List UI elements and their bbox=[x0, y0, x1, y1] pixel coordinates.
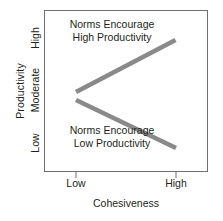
annotation-high-productivity-line2: High Productivity bbox=[52, 31, 172, 44]
y-tick-label-high-text: High bbox=[29, 27, 41, 49]
annotation-high-productivity: Norms Encourage High Productivity bbox=[52, 18, 172, 43]
annotation-low-productivity: Norms Encourage Low Productivity bbox=[52, 124, 172, 149]
y-axis-title-text: Productivity bbox=[14, 63, 26, 118]
y-tick-label-low-text: Low bbox=[29, 133, 41, 152]
y-axis-title: Productivity bbox=[12, 0, 28, 182]
y-tick-label-moderate: Moderate bbox=[27, 82, 43, 98]
y-tick-label-low: Low bbox=[27, 135, 43, 151]
y-tick-label-moderate-text: Moderate bbox=[29, 68, 41, 112]
x-tick-label-low: Low bbox=[52, 177, 100, 189]
x-tick-label-high: High bbox=[152, 177, 200, 189]
annotation-high-productivity-line1: Norms Encourage bbox=[52, 18, 172, 31]
high-productivity-trend-line bbox=[76, 40, 176, 92]
annotation-low-productivity-line1: Norms Encourage bbox=[52, 124, 172, 137]
annotation-low-productivity-line2: Low Productivity bbox=[52, 137, 172, 150]
productivity-cohesiveness-chart: Productivity High Moderate Low Low High … bbox=[0, 0, 223, 221]
y-tick-label-high: High bbox=[27, 30, 43, 46]
x-axis-title: Cohesiveness bbox=[44, 197, 208, 209]
